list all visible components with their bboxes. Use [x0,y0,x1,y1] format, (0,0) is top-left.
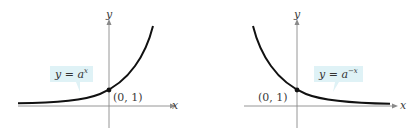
left-equation-base: y = a [55,68,84,81]
right-callout-pointer [333,82,339,92]
right-equation-exponent: −x [348,67,358,75]
right-x-axis-label: x [400,99,406,112]
left-axes [18,22,170,128]
left-equation-label: y = ax [50,66,93,82]
right-point-label: (0, 1) [258,91,288,104]
left-y-axis-label: y [106,8,112,21]
right-equation-label: y = a−x [314,66,363,82]
right-y-axis-label: y [294,8,300,21]
right-x-arrow-icon [392,104,398,109]
left-point-label: (0, 1) [113,91,143,104]
left-x-axis-label: x [172,99,178,112]
left-point-0-1 [107,88,112,93]
right-equation-base: y = a [319,68,348,81]
left-equation-exponent: x [84,67,88,75]
right-point-0-1 [295,88,300,93]
left-callout-pointer [76,82,80,92]
